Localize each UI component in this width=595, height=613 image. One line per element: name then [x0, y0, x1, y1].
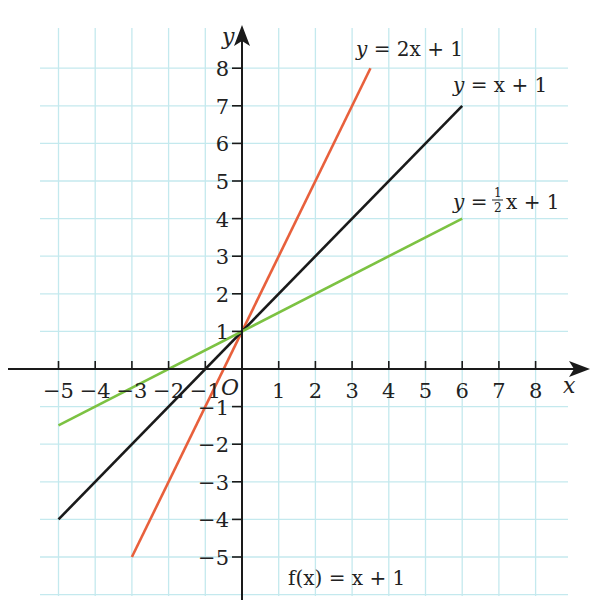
x-tick-label: −4 [80, 379, 111, 403]
tick-labels: −5−4−3−2−112345678−5−4−3−2−112345678 [43, 57, 542, 570]
y-tick-label: −3 [198, 471, 229, 495]
y-tick-label: 8 [216, 57, 229, 81]
x-tick-label: 2 [309, 379, 322, 403]
y-axis-label: y [221, 24, 235, 49]
series-line [59, 106, 463, 520]
origin-label: O [221, 375, 239, 400]
y-tick-label: −5 [198, 546, 229, 570]
y-tick-label: 1 [216, 320, 229, 344]
line-chart: −5−4−3−2−112345678−5−4−3−2−112345678 y x… [0, 0, 595, 613]
grid [40, 28, 568, 596]
x-tick-label: 8 [529, 379, 542, 403]
series-line [132, 68, 371, 557]
svg-text:x + 1: x + 1 [506, 190, 559, 214]
x-tick-label: −5 [43, 379, 74, 403]
x-tick-label: −3 [116, 379, 147, 403]
y-tick-label: −2 [198, 433, 229, 457]
y-tick-label: 7 [216, 95, 229, 119]
y-tick-label: 5 [216, 170, 229, 194]
y-tick-label: 3 [216, 245, 229, 269]
legend-label-x-plus-1: y = x + 1 [452, 73, 547, 97]
y-tick-label: −4 [198, 508, 229, 532]
x-tick-label: −2 [153, 379, 184, 403]
x-tick-label: 7 [492, 379, 505, 403]
svg-text:y =: y = [452, 190, 487, 214]
x-tick-label: 1 [272, 379, 285, 403]
x-tick-label: 5 [419, 379, 432, 403]
x-axis-label: x [563, 373, 576, 398]
chart-caption: f(x) = x + 1 [288, 566, 405, 590]
svg-text:2: 2 [494, 201, 502, 215]
legend-label-2x-plus-1: y = 2x + 1 [355, 37, 463, 61]
y-tick-label: 6 [216, 132, 229, 156]
x-tick-label: 4 [382, 379, 395, 403]
legend-label-half-x-plus-1: y = 1 2 x + 1 [452, 186, 559, 215]
y-tick-label: 4 [216, 208, 229, 232]
x-tick-label: 3 [345, 379, 358, 403]
plot-lines [59, 68, 463, 557]
x-tick-label: 6 [456, 379, 469, 403]
svg-text:1: 1 [494, 186, 502, 200]
y-tick-label: 2 [216, 283, 229, 307]
